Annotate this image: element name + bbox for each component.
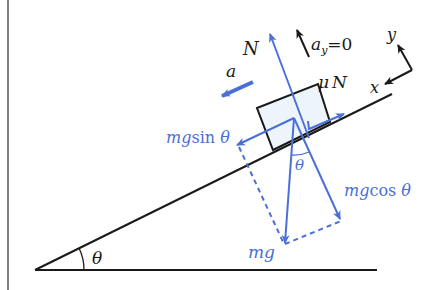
perpendicular-component-label: mgcos θ: [344, 181, 411, 200]
axis-x-arrow: [385, 70, 412, 84]
block-angle-arc: [291, 152, 309, 155]
incline-free-body-diagram: θ N μN mgsin θ mgcos θ mg θ a ay=0 y x: [0, 0, 443, 290]
acceleration-arrow: [222, 82, 253, 96]
weight-label: mg: [248, 242, 275, 262]
parallel-component-label: mgsin θ: [166, 128, 230, 147]
accel-y-arrow: [297, 30, 309, 57]
block-angle-label: θ: [295, 156, 304, 174]
axis-x-label: x: [370, 78, 379, 97]
accel-y-label: ay=0: [311, 34, 352, 57]
incline-angle-arc: [79, 248, 84, 270]
acceleration-label: a: [226, 61, 236, 81]
incline-angle-label: θ: [92, 248, 102, 268]
axis-y-arrow: [398, 45, 412, 70]
axis-y-label: y: [386, 25, 397, 44]
friction-force-label: μN: [318, 72, 348, 92]
incline-surface: [35, 94, 392, 270]
normal-force-label: N: [242, 38, 260, 59]
dashed-guide-bottom: [285, 221, 341, 244]
dashed-guide-left: [239, 147, 284, 244]
